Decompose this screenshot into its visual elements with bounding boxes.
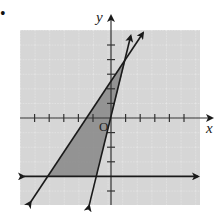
origin-label: O bbox=[99, 119, 108, 134]
x-axis-label: x bbox=[205, 120, 213, 136]
coordinate-graph: x y O bbox=[0, 0, 218, 213]
y-axis-label: y bbox=[94, 9, 103, 25]
